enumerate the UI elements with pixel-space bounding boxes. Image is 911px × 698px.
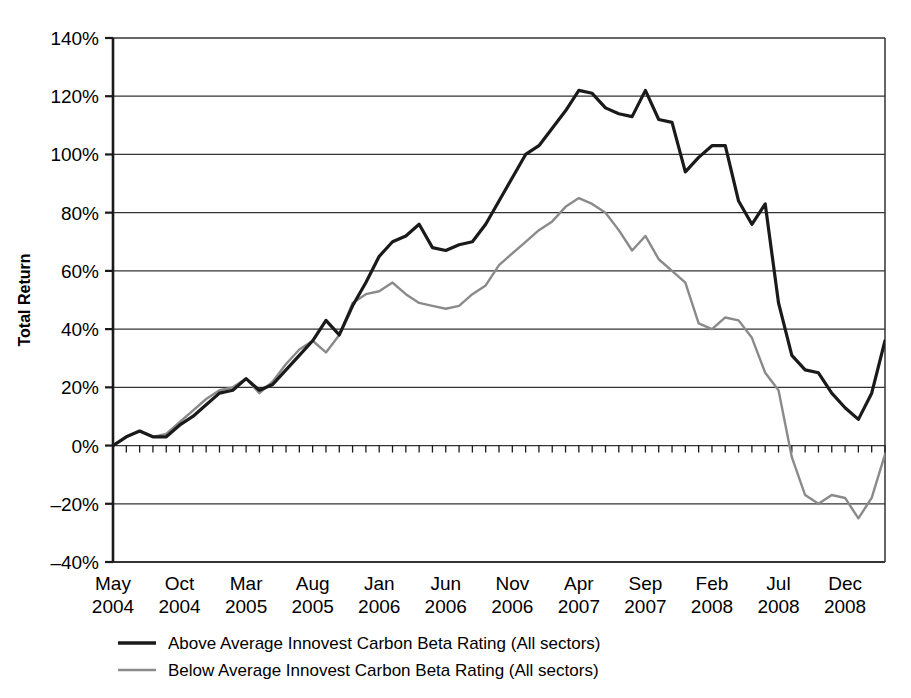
y-tick-label: 60%: [61, 261, 99, 282]
axis-ticks: [105, 38, 885, 562]
y-tick-label: 140%: [50, 28, 99, 49]
x-tick-label-month: Dec: [828, 573, 862, 594]
y-tick-label: –20%: [50, 494, 99, 515]
y-axis-tick-labels: 140%120%100%80%60%40%20%0%–20%–40%: [50, 28, 99, 573]
y-tick-label: 80%: [61, 203, 99, 224]
chart-legend: Above Average Innovest Carbon Beta Ratin…: [118, 634, 600, 680]
x-tick-label-year: 2004: [92, 596, 135, 617]
x-tick-label-year: 2004: [158, 596, 201, 617]
y-axis-title-text: Total Return: [16, 253, 33, 346]
x-tick-label-year: 2006: [491, 596, 533, 617]
x-tick-label-year: 2006: [358, 596, 400, 617]
x-tick-label-year: 2007: [558, 596, 600, 617]
x-tick-label-month: Apr: [564, 573, 594, 594]
x-tick-label-month: Aug: [296, 573, 330, 594]
series-line: [113, 90, 885, 445]
legend-label: Above Average Innovest Carbon Beta Ratin…: [168, 634, 600, 653]
x-tick-label-year: 2008: [691, 596, 733, 617]
y-tick-label: 0%: [72, 436, 100, 457]
y-tick-label: 40%: [61, 319, 99, 340]
x-tick-label-year: 2008: [824, 596, 866, 617]
y-tick-label: 100%: [50, 144, 99, 165]
x-axis-tick-labels: May2004Oct2004Mar2005Aug2005Jan2006Jun20…: [92, 573, 866, 617]
x-tick-label-year: 2005: [292, 596, 334, 617]
x-tick-label-month: Jun: [430, 573, 461, 594]
series-line: [113, 198, 885, 518]
x-tick-label-month: Jul: [766, 573, 790, 594]
x-tick-label-year: 2005: [225, 596, 267, 617]
y-axis-title: Total Return: [16, 253, 33, 346]
x-tick-label-month: Nov: [495, 573, 529, 594]
x-tick-label-year: 2007: [624, 596, 666, 617]
x-tick-label-year: 2008: [757, 596, 799, 617]
x-tick-label-month: Jan: [364, 573, 395, 594]
y-tick-label: –40%: [50, 552, 99, 573]
y-tick-label: 120%: [50, 86, 99, 107]
gridlines: [113, 96, 885, 504]
x-tick-label-month: Sep: [629, 573, 663, 594]
x-tick-label-month: Feb: [696, 573, 729, 594]
x-tick-label-year: 2006: [425, 596, 467, 617]
chart-figure: 140%120%100%80%60%40%20%0%–20%–40% May20…: [0, 0, 911, 698]
total-return-line-chart: 140%120%100%80%60%40%20%0%–20%–40% May20…: [0, 0, 911, 698]
y-tick-label: 20%: [61, 377, 99, 398]
x-tick-label-month: May: [95, 573, 131, 594]
x-tick-label-month: Oct: [165, 573, 195, 594]
x-tick-label-month: Mar: [230, 573, 263, 594]
plot-frame: [113, 38, 885, 562]
legend-label: Below Average Innovest Carbon Beta Ratin…: [168, 661, 599, 680]
